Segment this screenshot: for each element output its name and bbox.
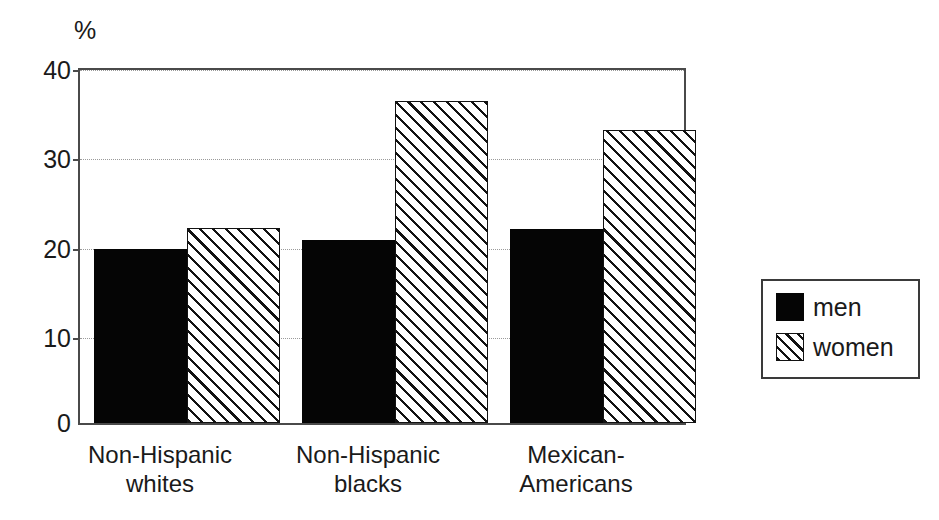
bar-women-mexican-americans xyxy=(603,130,696,423)
category-label-line-1: Non-Hispanic xyxy=(296,441,440,468)
y-tick-label-40: 40 xyxy=(43,58,71,83)
bar-chart-figure: % 40 30 20 xyxy=(0,0,939,520)
y-tick-label-10: 10 xyxy=(43,325,71,350)
plot-inner: 40 30 20 10 0 xyxy=(80,70,684,423)
y-tick-mark-40 xyxy=(73,70,80,72)
y-tick-mark-20 xyxy=(73,249,80,251)
bar-men-mexican-americans xyxy=(510,229,603,423)
category-label-line-2: blacks xyxy=(248,469,488,498)
y-tick-label-20: 20 xyxy=(43,236,71,261)
bar-women-non-hispanic-blacks xyxy=(395,101,488,423)
legend-item-men: men xyxy=(776,293,862,321)
category-label-line-1: Non-Hispanic xyxy=(88,441,232,468)
category-label-line-2: whites xyxy=(40,469,280,498)
category-label-non-hispanic-blacks: Non-Hispanic blacks xyxy=(248,440,488,499)
bar-men-non-hispanic-whites xyxy=(94,249,187,423)
bar-men-non-hispanic-blacks xyxy=(302,240,395,423)
legend-item-women: women xyxy=(776,333,894,361)
y-axis-unit-label: % xyxy=(74,18,96,43)
y-tick-label-30: 30 xyxy=(43,147,71,172)
category-label-line-2: Americans xyxy=(456,469,696,498)
plot-area: 40 30 20 10 0 xyxy=(78,68,686,425)
bar-women-non-hispanic-whites xyxy=(187,228,280,423)
y-tick-mark-10 xyxy=(73,338,80,340)
legend-swatch-men-icon xyxy=(776,293,804,321)
chart-legend: men women xyxy=(761,279,920,379)
y-tick-label-0: 0 xyxy=(57,411,71,436)
category-label-line-1: Mexican- xyxy=(527,441,624,468)
category-label-mexican-americans: Mexican- Americans xyxy=(456,440,696,499)
legend-label-men: men xyxy=(813,295,862,320)
y-tick-mark-30 xyxy=(73,159,80,161)
bars-layer xyxy=(80,70,684,423)
legend-swatch-women-icon xyxy=(776,333,804,361)
category-label-non-hispanic-whites: Non-Hispanic whites xyxy=(40,440,280,499)
legend-label-women: women xyxy=(813,335,894,360)
